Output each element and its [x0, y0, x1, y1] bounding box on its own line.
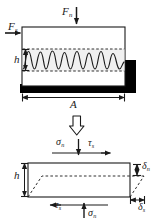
deformed-shape-right-edge-dashed: [130, 176, 144, 197]
upper-specimen-group: [5, 7, 136, 102]
normal-displacement-label: δn: [142, 161, 150, 171]
height-label-lower: h: [14, 170, 20, 181]
shear-displacement-label: δs: [138, 202, 145, 212]
lower-element-group: [21, 139, 145, 218]
figure-canvas: [0, 0, 165, 223]
height-label-upper: h: [14, 54, 20, 65]
shear-force-label: Fs: [8, 21, 17, 32]
joint-interface-figure: Fn Fs h A σn τs h δn δs τs σn: [0, 0, 165, 223]
normal-stress-label-top: σn: [56, 137, 64, 147]
normal-stress-label-bottom: σn: [88, 208, 96, 218]
shear-stress-label-bottom: τs: [55, 200, 61, 210]
area-label: A: [70, 99, 77, 110]
shear-stress-label-top: τs: [88, 138, 94, 148]
normal-force-label: Fn: [62, 6, 72, 17]
transition-down-arrow-icon: [70, 116, 85, 135]
joint-element-outline: [28, 163, 130, 197]
